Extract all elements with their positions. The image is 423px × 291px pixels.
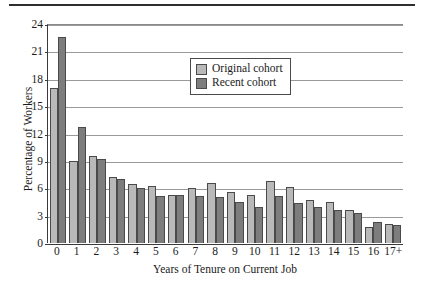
- legend-label-recent: Recent cohort: [212, 77, 276, 89]
- bar-original-14: [326, 202, 334, 243]
- bar-group-17+: [383, 25, 403, 243]
- bar-original-8: [207, 183, 215, 243]
- bar-original-17+: [385, 224, 393, 243]
- bar-recent-5: [156, 196, 164, 243]
- x-tick-label-8: 8: [205, 246, 225, 258]
- bar-recent-6: [176, 195, 184, 243]
- bar-group-3: [107, 25, 127, 243]
- bar-group-1: [68, 25, 88, 243]
- bar-recent-2: [97, 159, 105, 243]
- bar-recent-12: [294, 203, 302, 243]
- bar-recent-0: [58, 37, 66, 243]
- bar-original-6: [168, 195, 176, 243]
- bar-group-6: [166, 25, 186, 243]
- x-tick-label-3: 3: [106, 246, 126, 258]
- bar-group-15: [344, 25, 364, 243]
- bar-original-10: [247, 195, 255, 243]
- y-tick-label-12: 12: [32, 129, 44, 141]
- x-tick-label-17+: 17+: [383, 246, 403, 258]
- bar-group-2: [87, 25, 107, 243]
- bar-original-2: [89, 156, 97, 243]
- bar-original-0: [50, 88, 58, 243]
- bar-original-4: [128, 184, 136, 243]
- chart-legend: Original cohort Recent cohort: [190, 58, 291, 95]
- y-tick-label-0: 0: [37, 238, 43, 250]
- bar-original-11: [266, 181, 274, 243]
- x-tick-label-12: 12: [284, 246, 304, 258]
- legend-label-original: Original cohort: [212, 63, 283, 75]
- x-tick-label-5: 5: [146, 246, 166, 258]
- bar-recent-10: [255, 207, 263, 244]
- bar-original-1: [69, 161, 77, 243]
- bar-recent-17+: [393, 225, 401, 243]
- legend-item-recent: Recent cohort: [196, 76, 283, 90]
- legend-item-original: Original cohort: [196, 62, 283, 76]
- bar-group-5: [147, 25, 167, 243]
- bar-recent-15: [354, 213, 362, 243]
- y-tick-label-15: 15: [32, 101, 44, 113]
- x-tick-label-11: 11: [265, 246, 285, 258]
- y-tick-label-24: 24: [32, 19, 44, 31]
- x-tick-label-16: 16: [364, 246, 384, 258]
- bar-recent-7: [196, 196, 204, 243]
- bar-group-0: [48, 25, 68, 243]
- bar-recent-16: [373, 222, 381, 243]
- y-tick-label-18: 18: [32, 74, 44, 86]
- bar-recent-9: [235, 202, 243, 243]
- bar-chart-figure: Percentage of Workers 03691215182124 012…: [0, 0, 423, 291]
- y-tick-label-9: 9: [37, 156, 43, 168]
- bar-group-14: [324, 25, 344, 243]
- bar-recent-11: [275, 196, 283, 243]
- y-tick-label-21: 21: [32, 47, 44, 59]
- x-axis-title: Years of Tenure on Current Job: [47, 263, 403, 275]
- x-tick-label-9: 9: [225, 246, 245, 258]
- bar-original-13: [306, 200, 314, 243]
- bar-recent-1: [78, 127, 86, 243]
- bar-original-3: [109, 177, 117, 243]
- bar-original-5: [148, 186, 156, 243]
- bar-group-4: [127, 25, 147, 243]
- y-tick-label-3: 3: [37, 211, 43, 223]
- y-tick-label-6: 6: [37, 184, 43, 196]
- bar-original-7: [188, 188, 196, 243]
- bar-recent-14: [334, 210, 342, 243]
- bar-recent-3: [117, 179, 125, 243]
- bar-recent-4: [137, 188, 145, 243]
- x-tick-label-10: 10: [245, 246, 265, 258]
- plot-area: 03691215182124: [47, 24, 403, 243]
- x-tick-label-1: 1: [67, 246, 87, 258]
- bar-original-16: [365, 227, 373, 243]
- x-tick-label-7: 7: [185, 246, 205, 258]
- bar-original-15: [345, 210, 353, 243]
- x-tick-label-15: 15: [344, 246, 364, 258]
- x-tick-label-0: 0: [47, 246, 67, 258]
- x-tick-label-6: 6: [166, 246, 186, 258]
- x-tick-label-14: 14: [324, 246, 344, 258]
- y-tick-mark-0: [45, 244, 49, 245]
- bar-group-13: [304, 25, 324, 243]
- bar-recent-13: [314, 207, 322, 244]
- legend-swatch-original-icon: [196, 64, 207, 75]
- bar-original-9: [227, 192, 235, 243]
- x-tick-label-2: 2: [87, 246, 107, 258]
- bar-group-16: [364, 25, 384, 243]
- x-tick-label-13: 13: [304, 246, 324, 258]
- bar-original-12: [286, 187, 294, 243]
- x-axis-tick-labels: 01234567891011121314151617+: [47, 246, 403, 258]
- legend-swatch-recent-icon: [196, 78, 207, 89]
- x-tick-label-4: 4: [126, 246, 146, 258]
- bar-recent-8: [216, 197, 224, 243]
